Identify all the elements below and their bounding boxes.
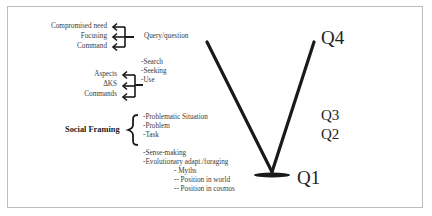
label-social-framing: Social Framing	[65, 126, 120, 135]
item-task: -Task	[143, 131, 159, 140]
item-use: -Use	[141, 76, 155, 85]
label-query-question: Query/question	[144, 32, 188, 41]
level-q4: Q4	[321, 28, 344, 47]
label-aspects: Aspects	[94, 70, 117, 79]
arrow-group-aspects	[123, 72, 143, 101]
item-problem: -Problem	[143, 122, 170, 131]
curly-brace-icon	[128, 115, 138, 145]
level-q1: Q1	[297, 168, 320, 187]
item-problematic-situation: -Problematic Situation	[143, 113, 208, 122]
item-position-in-world: -- Position in world	[174, 176, 230, 185]
item-evolutionary-adapt: -Evolutionary adapt./foraging	[143, 158, 228, 167]
item-position-in-cosmos: -- Position in cosmos	[174, 185, 235, 194]
label-commands: Commands	[84, 90, 117, 99]
label-command: Command	[77, 42, 107, 51]
level-q2: Q2	[321, 127, 339, 142]
item-myths: - Myths	[174, 167, 197, 176]
label-focusing: Focusing	[81, 32, 107, 41]
item-sense-making: -Sense-making	[143, 149, 186, 158]
item-search: -Search	[141, 58, 163, 67]
label-delta-ks: ΔKS	[103, 80, 117, 89]
item-seeking: -Seeking	[141, 67, 167, 76]
label-compromised-need: Compromised need	[51, 22, 107, 31]
level-q3: Q3	[321, 108, 339, 123]
arrow-group-query	[113, 24, 134, 51]
